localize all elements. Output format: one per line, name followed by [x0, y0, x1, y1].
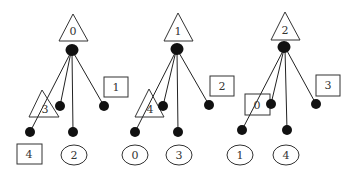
node — [130, 127, 140, 137]
node — [158, 101, 168, 111]
triangle-label: 3 — [42, 103, 49, 116]
circle-label: 0 — [132, 149, 139, 162]
node — [55, 101, 65, 111]
tree-0: 0 3 1 4 2 — [17, 14, 128, 165]
edge — [286, 49, 316, 104]
edge — [178, 51, 209, 105]
circle-label: 2 — [71, 149, 78, 162]
root-node — [171, 43, 184, 55]
triangle-label: 4 — [147, 103, 154, 116]
tree-2: 2 0 3 1 4 — [227, 12, 340, 165]
node — [266, 99, 276, 109]
root-label: 1 — [175, 25, 182, 38]
node — [68, 127, 78, 137]
circle-label: 4 — [283, 149, 290, 162]
square-label: 1 — [113, 81, 120, 94]
node — [99, 101, 109, 111]
node — [173, 127, 183, 137]
node — [204, 100, 214, 110]
square-label: 2 — [219, 80, 226, 93]
root-label: 2 — [282, 24, 289, 37]
edge — [73, 52, 104, 106]
node — [311, 99, 321, 109]
edge — [60, 52, 71, 106]
root-node — [278, 41, 291, 53]
edge — [285, 49, 287, 130]
edge — [30, 52, 71, 132]
node — [25, 127, 35, 137]
square-label: 3 — [325, 79, 332, 92]
edge — [72, 52, 73, 132]
edge — [242, 49, 284, 130]
edge — [163, 51, 176, 106]
edge — [135, 51, 176, 132]
edge — [271, 49, 284, 104]
root-label: 0 — [70, 25, 77, 38]
square-label: 4 — [26, 148, 33, 161]
node — [237, 125, 247, 135]
diagram-canvas: 0 3 1 4 2 1 4 2 — [0, 0, 356, 181]
node — [282, 125, 292, 135]
root-node — [66, 44, 79, 56]
square-label: 0 — [254, 99, 261, 112]
tree-1: 1 4 2 0 3 — [122, 13, 234, 165]
circle-label: 3 — [176, 149, 183, 162]
edge — [177, 51, 178, 132]
circle-label: 1 — [237, 149, 244, 162]
